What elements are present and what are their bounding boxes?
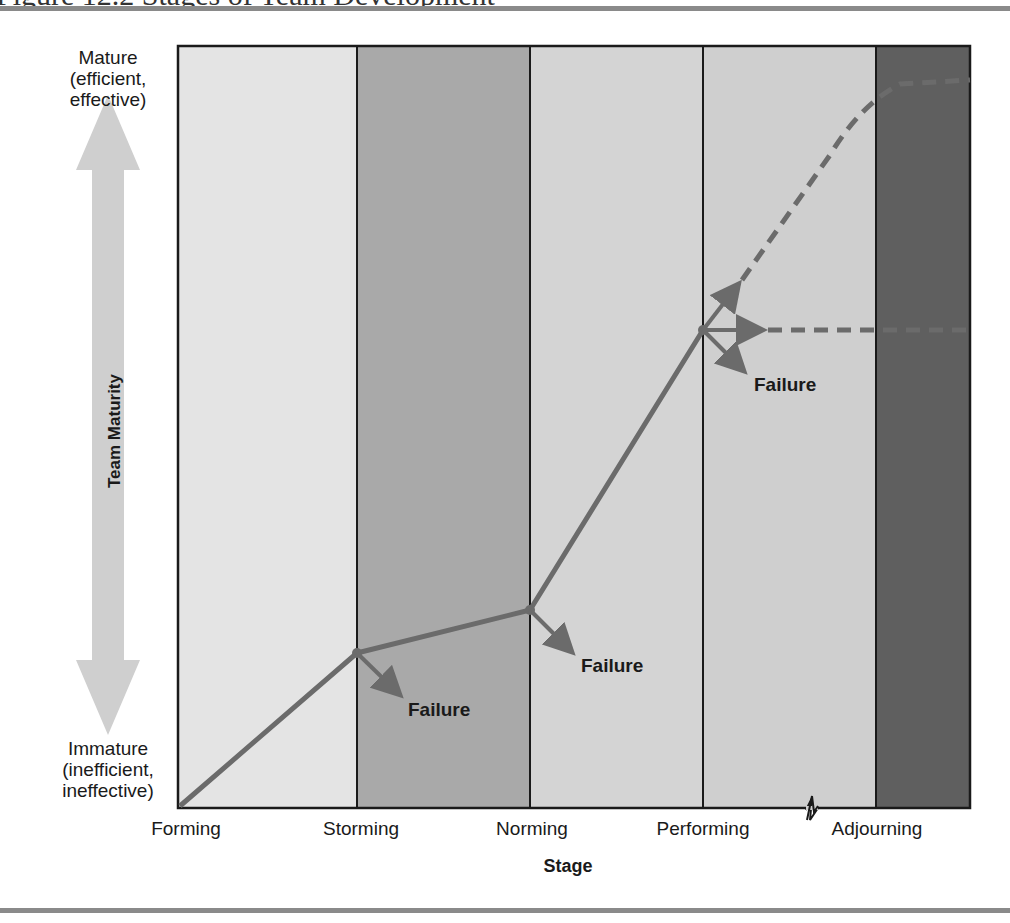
failure-label-storming: Failure bbox=[408, 699, 470, 721]
y-bottom-label: Immature (inefficient, ineffective) bbox=[33, 738, 183, 801]
x-tick-forming: Forming bbox=[151, 818, 221, 840]
stage-band-norming bbox=[530, 46, 703, 808]
y-top-label-line: (efficient, bbox=[33, 68, 183, 89]
y-top-label-line: Mature bbox=[33, 47, 183, 68]
stage-band-forming bbox=[178, 46, 357, 808]
stage-band-performing bbox=[703, 46, 876, 808]
x-axis-title: Stage bbox=[543, 856, 592, 877]
failure-label-norming: Failure bbox=[581, 655, 643, 677]
x-tick-adjourning: Adjourning bbox=[832, 818, 923, 840]
stage-band-adjourning bbox=[876, 46, 970, 808]
x-tick-storming: Storming bbox=[323, 818, 399, 840]
y-bottom-label-line: (inefficient, bbox=[33, 759, 183, 780]
failure-label-performing: Failure bbox=[754, 374, 816, 396]
y-bottom-label-line: ineffective) bbox=[33, 780, 183, 801]
y-top-label: Mature (efficient, effective) bbox=[33, 47, 183, 110]
y-top-label-line: effective) bbox=[33, 89, 183, 110]
bottom-rule bbox=[0, 908, 1010, 913]
x-tick-performing: Performing bbox=[657, 818, 750, 840]
x-tick-norming: Norming bbox=[496, 818, 568, 840]
stage-band-storming bbox=[357, 46, 530, 808]
y-axis-title: Team Maturity bbox=[105, 378, 125, 488]
y-bottom-label-line: Immature bbox=[33, 738, 183, 759]
